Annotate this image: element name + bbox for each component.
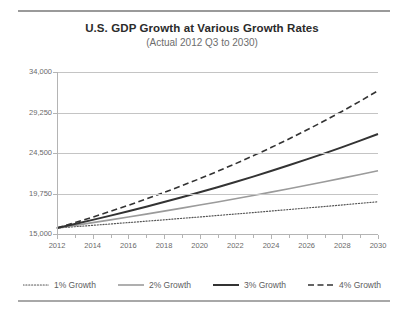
x-tick-mark-major: [342, 235, 343, 239]
chart-legend: 1% Growth2% Growth3% Growth4% Growth: [0, 280, 404, 290]
y-tick-label: 24,500: [29, 148, 52, 157]
legend-item[interactable]: 4% Growth: [308, 280, 381, 290]
y-tick-mark: [53, 72, 57, 73]
series-line: [57, 171, 378, 228]
x-tick-label: 2030: [370, 241, 387, 250]
gridline: [57, 113, 378, 114]
legend-item[interactable]: 1% Growth: [23, 280, 96, 290]
legend-swatch-icon: [23, 281, 49, 289]
legend-label: 4% Growth: [339, 280, 381, 290]
y-tick-label: 34,000: [29, 67, 52, 76]
x-tick-mark-major: [93, 235, 94, 239]
x-tick-mark-major: [57, 235, 58, 239]
legend-label: 2% Growth: [149, 280, 191, 290]
x-tick-mark-major: [200, 235, 201, 239]
x-tick-mark-minor: [360, 235, 361, 238]
gridline: [57, 194, 378, 195]
x-tick-mark-minor: [325, 235, 326, 238]
x-tick-mark-major: [271, 235, 272, 239]
legend-item[interactable]: 2% Growth: [118, 280, 191, 290]
y-tick-mark: [53, 153, 57, 154]
y-tick-mark: [53, 194, 57, 195]
y-tick-label: 19,750: [29, 189, 52, 198]
legend-label: 1% Growth: [54, 280, 96, 290]
y-tick-mark: [53, 113, 57, 114]
legend-swatch-icon: [213, 281, 239, 289]
chart-subtitle: (Actual 2012 Q3 to 2030): [0, 37, 404, 48]
chart-title: U.S. GDP Growth at Various Growth Rates: [0, 22, 404, 34]
x-tick-mark-major: [164, 235, 165, 239]
x-tick-mark-minor: [75, 235, 76, 238]
series-line: [57, 202, 378, 228]
x-tick-label: 2022: [227, 241, 244, 250]
x-tick-label: 2026: [298, 241, 315, 250]
legend-swatch-icon: [308, 281, 334, 289]
legend-label: 3% Growth: [244, 280, 286, 290]
x-tick-mark-major: [235, 235, 236, 239]
gridline: [57, 72, 378, 73]
x-tick-label: 2016: [120, 241, 137, 250]
x-tick-mark-major: [128, 235, 129, 239]
y-axis-line: [57, 72, 58, 235]
legend-item[interactable]: 3% Growth: [213, 280, 286, 290]
gridline: [57, 153, 378, 154]
x-tick-mark-minor: [182, 235, 183, 238]
series-line: [57, 91, 378, 228]
legend-swatch-icon: [118, 281, 144, 289]
y-tick-label: 15,000: [29, 229, 52, 238]
x-tick-mark-minor: [146, 235, 147, 238]
x-tick-label: 2012: [49, 241, 66, 250]
x-tick-mark-major: [307, 235, 308, 239]
x-tick-label: 2018: [156, 241, 173, 250]
x-tick-label: 2014: [84, 241, 101, 250]
x-tick-label: 2028: [334, 241, 351, 250]
x-tick-label: 2020: [191, 241, 208, 250]
x-tick-mark-minor: [111, 235, 112, 238]
x-tick-label: 2024: [263, 241, 280, 250]
x-tick-mark-major: [378, 235, 379, 239]
x-tick-mark-minor: [218, 235, 219, 238]
top-divider: [18, 10, 390, 12]
x-tick-mark-minor: [289, 235, 290, 238]
x-tick-mark-minor: [253, 235, 254, 238]
y-tick-label: 29,250: [29, 108, 52, 117]
bottom-divider: [18, 300, 390, 302]
